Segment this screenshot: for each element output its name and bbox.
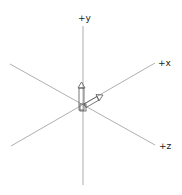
x-axis-label: +x: [158, 58, 171, 68]
x-arrow-icon: [84, 95, 103, 108]
axes-canvas: [0, 0, 182, 195]
y-axis-label: +y: [78, 13, 91, 23]
axes-diagram: +y +x +z: [0, 0, 182, 195]
z-axis-line: [10, 64, 155, 145]
z-axis-label: +z: [159, 141, 171, 151]
